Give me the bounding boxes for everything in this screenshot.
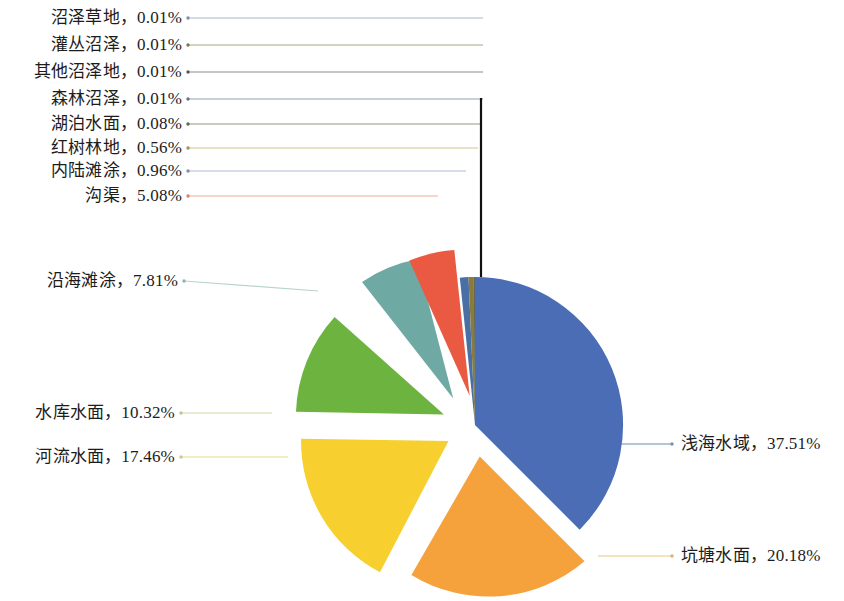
pie-label-kengtang-shuimian: 坑塘水面，20.18%: [681, 546, 821, 566]
leader-dot-shuiku-shuimian: [179, 411, 182, 414]
pie-label-neilu-tantu: 内陆滩涂，0.96%: [51, 161, 182, 181]
leader-dot-heliu-shuimian: [179, 455, 182, 458]
pie-label-yanhai-tantu: 沿海滩涂，7.81%: [47, 271, 178, 291]
leader-dot-yanhai-tantu: [182, 279, 185, 282]
pie-label-guancong-zhaoze: 灌丛沼泽，0.01%: [51, 35, 182, 55]
pie-label-qianhai-shuiyu: 浅海水域，37.51%: [681, 434, 821, 454]
pie-label-shuiku-shuimian: 水库水面，10.32%: [35, 403, 175, 423]
leader-dot-hupo-shuimian: [186, 122, 189, 125]
pie-chart-figure: 沼泽草地，0.01% 灌丛沼泽，0.01% 其他沼泽地，0.01% 森林沼泽，0…: [0, 0, 844, 601]
leader-dot-qianhai-shuiyu: [670, 442, 673, 445]
leader-line-yanhai-tantu: [184, 281, 318, 291]
pie-label-gouqu: 沟渠，5.08%: [85, 186, 182, 206]
pie-slices: [296, 98, 623, 597]
pie-label-zhaoze-caodi: 沼泽草地，0.01%: [51, 8, 182, 28]
pie-label-hongshulin-di: 红树林地，0.56%: [51, 138, 182, 158]
leader-dot-gouqu: [186, 194, 189, 197]
pie-label-qita-zhaozedi: 其他沼泽地，0.01%: [34, 62, 182, 82]
leader-dot-zhaoze-caodi: [186, 16, 189, 19]
pie-label-heliu-shuimian: 河流水面，17.46%: [35, 447, 175, 467]
pie-label-senlin-zhaoze: 森林沼泽，0.01%: [51, 89, 182, 109]
leader-dot-guancong-zhaoze: [186, 43, 189, 46]
leader-dot-qita-zhaozedi: [186, 70, 189, 73]
leader-dot-kengtang-shuimian: [670, 554, 673, 557]
leader-dot-senlin-zhaoze: [186, 97, 189, 100]
leader-dot-neilu-tantu: [186, 169, 189, 172]
leader-dot-hongshulin-di: [186, 146, 189, 149]
pie-label-hupo-shuimian: 湖泊水面，0.08%: [51, 114, 182, 134]
